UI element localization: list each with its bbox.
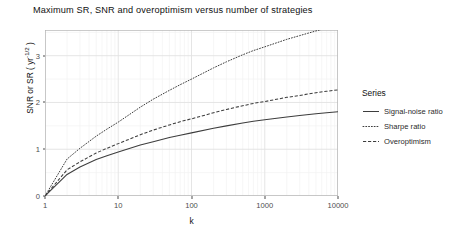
x-axis-tick-mark xyxy=(338,196,339,199)
x-axis-label: k xyxy=(45,216,338,226)
x-axis-tick-label: 1000 xyxy=(256,201,273,210)
legend-line-icon xyxy=(362,105,380,118)
y-axis-tick-label: 1 xyxy=(36,145,40,154)
legend-line-icon xyxy=(362,120,380,133)
y-axis-tick-mark xyxy=(43,102,46,103)
y-axis-label-text: SNR or SR ( yr xyxy=(25,58,35,114)
legend-entries: Signal-noise ratioSharpe ratioOveroptimi… xyxy=(362,104,443,149)
chart-title: Maximum SR, SNR and overoptimism versus … xyxy=(33,5,313,15)
y-axis-label-exponent: -1/2 xyxy=(23,47,30,58)
x-axis-tick-label: 1 xyxy=(43,201,47,210)
y-axis-tick-label: 2 xyxy=(36,98,40,107)
x-axis-tick-label: 10000 xyxy=(327,201,348,210)
y-axis-tick-mark xyxy=(43,55,46,56)
legend-item[interactable]: Signal-noise ratio xyxy=(362,104,443,119)
y-axis-tick-label: 0 xyxy=(36,192,40,201)
y-axis-label: SNR or SR ( yr-1/2 ) xyxy=(23,13,35,143)
legend-item[interactable]: Overoptimism xyxy=(362,134,443,149)
x-axis-tick-mark xyxy=(191,196,192,199)
x-axis-tick-mark xyxy=(264,196,265,199)
plot-panel: 0123110100100010000 xyxy=(45,30,338,196)
legend-line-icon xyxy=(362,135,380,148)
legend-title: Series xyxy=(362,88,443,98)
x-axis-tick-label: 10 xyxy=(114,201,122,210)
legend-item-label: Signal-noise ratio xyxy=(384,107,443,116)
legend-item-label: Sharpe ratio xyxy=(384,122,425,131)
x-axis-tick-mark xyxy=(118,196,119,199)
x-axis-tick-label: 100 xyxy=(185,201,198,210)
y-axis-tick-mark xyxy=(43,149,46,150)
x-axis-tick-mark xyxy=(45,196,46,199)
chart-figure: Maximum SR, SNR and overoptimism versus … xyxy=(0,0,464,236)
legend-item[interactable]: Sharpe ratio xyxy=(362,119,443,134)
y-axis-label-tail: ) xyxy=(25,42,35,47)
plot-canvas xyxy=(45,30,338,196)
y-axis-tick-label: 3 xyxy=(36,51,40,60)
legend: Series Signal-noise ratioSharpe ratioOve… xyxy=(362,88,443,149)
legend-item-label: Overoptimism xyxy=(384,137,431,146)
